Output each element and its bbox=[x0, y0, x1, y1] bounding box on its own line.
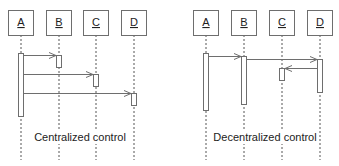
activation-b bbox=[57, 56, 62, 68]
object-box-c: C bbox=[270, 11, 295, 36]
centralized-diagram: A B C D Centralized control bbox=[9, 11, 147, 161]
object-box-d: D bbox=[308, 11, 333, 36]
sequence-diagrams: A B C D Centralized control bbox=[0, 0, 339, 166]
activation-a bbox=[19, 54, 24, 117]
object-label-b: B bbox=[55, 16, 62, 28]
object-box-b: B bbox=[232, 11, 257, 36]
object-label-b: B bbox=[240, 16, 247, 28]
object-label-d: D bbox=[316, 16, 324, 28]
activation-c bbox=[280, 69, 285, 81]
object-label-c: C bbox=[92, 16, 100, 28]
object-box-c: C bbox=[84, 11, 109, 36]
decentralized-diagram: A B C D Decentralized control bbox=[194, 11, 333, 161]
object-box-b: B bbox=[47, 11, 72, 36]
activation-d bbox=[132, 94, 137, 106]
object-label-c: C bbox=[278, 16, 286, 28]
object-label-a: A bbox=[202, 16, 210, 28]
object-box-a: A bbox=[194, 11, 219, 36]
activation-c bbox=[94, 75, 99, 87]
object-box-d: D bbox=[122, 11, 147, 36]
object-label-a: A bbox=[17, 16, 25, 28]
activation-b bbox=[242, 57, 247, 105]
caption-centralized: Centralized control bbox=[34, 131, 126, 143]
caption-decentralized: Decentralized control bbox=[213, 131, 316, 143]
activation-d bbox=[318, 60, 323, 93]
activation-a bbox=[204, 54, 209, 111]
object-label-d: D bbox=[130, 16, 138, 28]
object-box-a: A bbox=[9, 11, 34, 36]
